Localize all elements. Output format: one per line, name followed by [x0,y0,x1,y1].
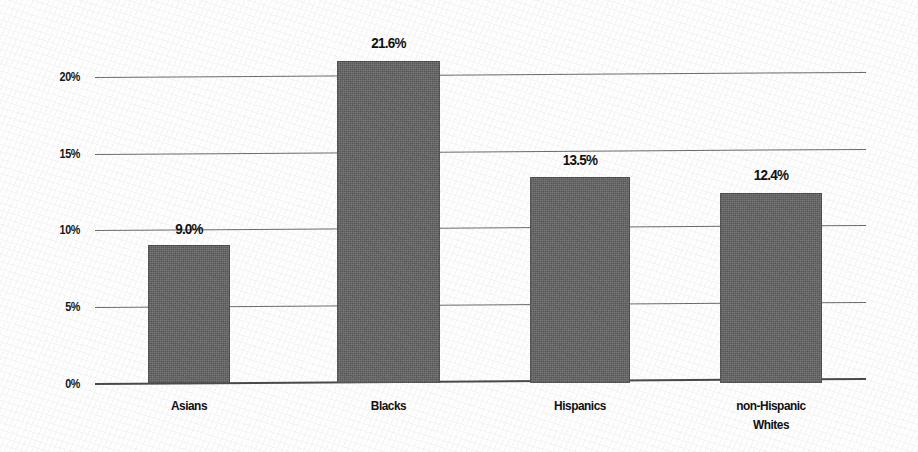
ytick-20: 20% [10,70,80,86]
category-label-asians: Asians [144,396,234,415]
ytick-label: 15% [30,147,80,161]
category-label-blacks: Blacks [343,396,434,415]
ytick-label: 20% [30,70,80,84]
bar-value-blacks: 21.6% [342,34,435,51]
plot-area: 20% 15% 10% 5% 0% 9.0% Asians 21.6% Blac… [0,0,918,452]
bar-value-hispanics: 13.5% [535,151,625,168]
ytick-label: 0% [30,377,80,391]
ytick-label: 5% [30,300,80,314]
ytick-0: 0% [10,377,80,393]
category-label-non-hispanic-whites: non-Hispanic Whites [714,396,828,434]
ytick-5: 5% [10,300,80,316]
bar-non-hispanic-whites [720,193,822,383]
bar-value-non-hispanic-whites: 12.4% [725,166,817,183]
bar-blacks [337,61,440,383]
bar-value-asians: 9.0% [152,220,226,237]
ytick-15: 15% [10,147,80,163]
ytick-label: 10% [30,223,80,237]
gridline-20 [95,72,866,78]
bar-hispanics [530,177,630,383]
category-label-hispanics: Hispanics [534,396,626,415]
ytick-10: 10% [10,223,80,239]
bar-chart: 20% 15% 10% 5% 0% 9.0% Asians 21.6% Blac… [0,0,918,452]
gridline-15 [95,149,866,155]
bar-asians [148,245,230,383]
